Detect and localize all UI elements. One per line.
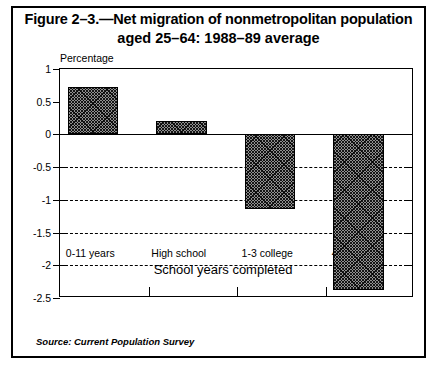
y-axis-tick-right [405,167,412,168]
figure-root: Figure 2–3.—Net migration of nonmetropol… [0,0,437,371]
y-axis-tick-inner [60,200,66,201]
figure-title-line-2: aged 25–64: 1988–89 average [13,29,424,48]
y-axis-tick-inner [60,167,66,168]
y-axis-tick-label: -2.5 [33,292,51,304]
y-axis-tick [53,69,60,70]
figure-title: Figure 2–3.—Net migration of nonmetropol… [13,10,424,48]
y-axis-unit-label: Percentage [60,52,114,64]
y-axis-tick-label: 0 [45,128,51,140]
y-axis-tick-label: 0.5 [36,96,51,108]
y-axis-tick-label: -1 [42,194,51,206]
x-axis-tick [149,287,150,296]
y-axis-tick [53,233,60,234]
y-axis-tick [53,298,60,299]
x-axis-category-label: 0-11 years [66,247,115,259]
y-axis-tick-inner [60,233,66,234]
bar [156,121,207,134]
y-axis-tick-label: 1 [45,63,51,75]
y-axis-tick-label: -1.5 [33,227,51,239]
x-axis-tick [237,287,238,296]
y-axis-tick [53,102,60,103]
x-axis-tick [326,287,327,296]
bar [68,87,119,134]
y-axis-tick-label: -0.5 [33,161,51,173]
x-axis-category-label: 1-3 college [242,247,293,259]
y-axis-tick-right [405,233,412,234]
bar [245,134,296,209]
y-axis-tick [53,167,60,168]
figure-title-line-1: Figure 2–3.—Net migration of nonmetropol… [13,10,424,29]
bar [333,134,384,290]
y-axis-tick [53,200,60,201]
y-axis-tick [53,134,60,135]
source-note: Source: Current Population Survey [36,336,194,347]
zero-baseline [60,134,412,135]
y-axis-tick-right [405,265,412,266]
x-axis-category-label: High school [151,247,206,259]
y-axis-tick-right [405,200,412,201]
